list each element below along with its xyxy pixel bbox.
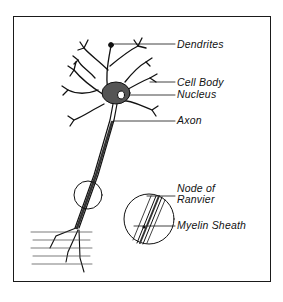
label-axon: Axon — [177, 115, 202, 126]
dendrite-tip — [109, 43, 114, 48]
nucleus — [118, 91, 125, 99]
axon — [75, 104, 117, 228]
dendrites — [62, 38, 158, 126]
inset-axon-segment — [133, 196, 165, 244]
label-dendrites: Dendrites — [177, 39, 224, 50]
label-node-of-ranvier-line2: Ranvier — [177, 194, 215, 205]
cell-body — [102, 82, 130, 104]
label-cell-body: Cell Body — [177, 77, 224, 88]
label-myelin-sheath: Myelin Sheath — [177, 220, 246, 231]
label-nucleus: Nucleus — [177, 89, 216, 100]
axon-terminals — [31, 228, 92, 272]
neuron-illustration — [0, 0, 283, 302]
